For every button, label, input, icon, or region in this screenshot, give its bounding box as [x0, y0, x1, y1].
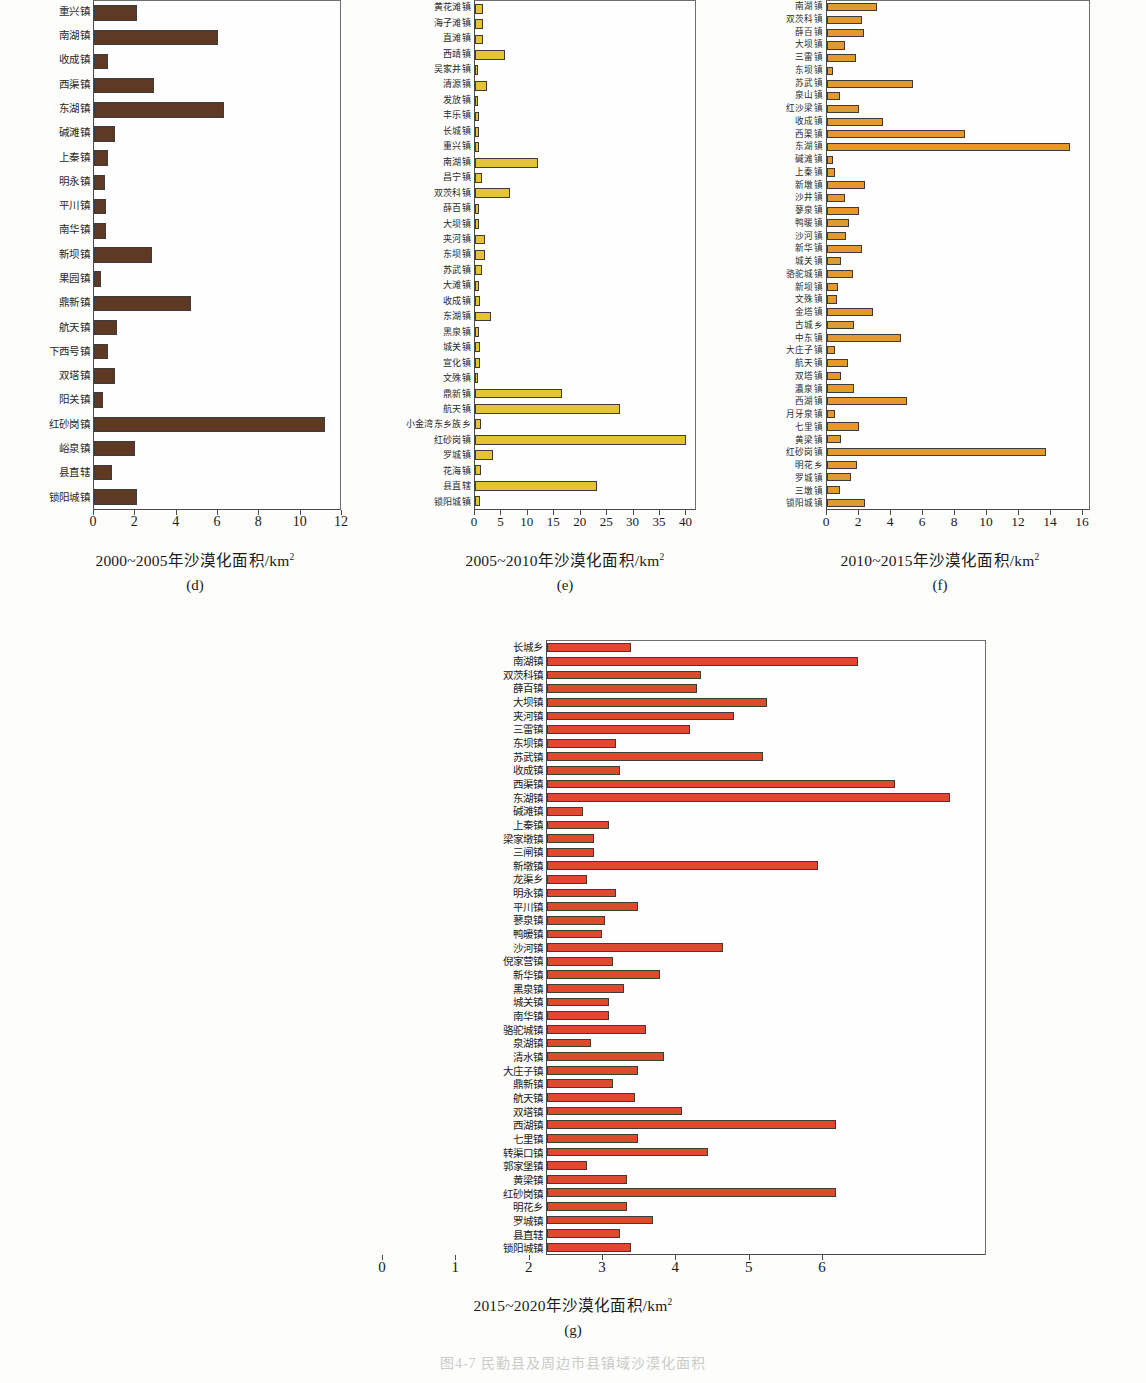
- bar-row: [547, 1200, 985, 1214]
- bar-row: [547, 1050, 985, 1064]
- category-label: 上秦镇: [8, 146, 90, 170]
- bar: [547, 1161, 587, 1170]
- category-label: 三雷镇: [451, 722, 543, 736]
- bar: [827, 359, 848, 367]
- category-label: 转渠口镇: [451, 1145, 543, 1159]
- bar: [547, 657, 859, 666]
- bar: [475, 50, 505, 60]
- bar: [475, 419, 481, 429]
- bar: [475, 96, 478, 106]
- bar-row: [827, 77, 1089, 90]
- category-label: 西渠镇: [8, 73, 90, 97]
- category-label: 上秦镇: [746, 166, 823, 179]
- bar: [827, 245, 862, 253]
- category-label: 新墩镇: [451, 859, 543, 873]
- category-label: 收成镇: [396, 294, 471, 309]
- bar: [827, 435, 841, 443]
- category-label: 县直辖: [8, 461, 90, 485]
- bar: [827, 448, 1046, 456]
- bar: [827, 384, 854, 392]
- bar: [475, 250, 485, 260]
- bar-row: [94, 243, 340, 267]
- bar-row: [547, 927, 985, 941]
- plot-area-g: [546, 640, 986, 1255]
- category-label: 黄梁镇: [451, 1173, 543, 1187]
- bar: [475, 112, 479, 122]
- bar: [547, 834, 595, 843]
- category-label: 郭家堡镇: [451, 1159, 543, 1173]
- bar: [827, 156, 833, 164]
- category-label: 重兴镇: [8, 0, 90, 24]
- x-axis-f: 0246810121416: [740, 510, 1110, 540]
- bar-row: [547, 941, 985, 955]
- bar: [475, 235, 485, 245]
- x-axis-title-sup-f: 2: [1035, 552, 1040, 562]
- bar-row: [475, 494, 695, 509]
- category-label: 罗城镇: [396, 448, 471, 463]
- category-label: 泉湖镇: [451, 1036, 543, 1050]
- bar: [94, 489, 137, 504]
- bar-row: [547, 1104, 985, 1118]
- bar-row: [547, 1159, 985, 1173]
- bar-row: [475, 370, 695, 385]
- category-label: 倪家营镇: [451, 954, 543, 968]
- category-label: 鸭暖镇: [451, 927, 543, 941]
- bar-row: [547, 668, 985, 682]
- category-label: 鼎新镇: [8, 291, 90, 315]
- bar: [475, 173, 482, 183]
- axis-tick-label: 10: [979, 514, 993, 530]
- category-label: 罗城镇: [451, 1214, 543, 1228]
- bar: [547, 1052, 664, 1061]
- x-axis-title-text-d: 2000~2005年沙漠化面积/km: [95, 552, 289, 569]
- bar-row: [827, 280, 1089, 293]
- bar: [547, 861, 818, 870]
- bar-row: [475, 186, 695, 201]
- bar-row: [547, 777, 985, 791]
- bar: [547, 970, 661, 979]
- bar: [547, 1148, 708, 1157]
- bar-row: [547, 859, 985, 873]
- x-axis-title-d: 2000~2005年沙漠化面积/km2: [0, 548, 390, 570]
- bar-row: [475, 1, 695, 16]
- category-label: 平川镇: [8, 194, 90, 218]
- bar: [94, 199, 106, 214]
- bar: [475, 265, 482, 275]
- bar-row: [547, 1023, 985, 1037]
- bar-row: [827, 420, 1089, 433]
- bar: [547, 1039, 591, 1048]
- bar-row: [475, 232, 695, 247]
- bar-row: [827, 179, 1089, 192]
- category-label: 重兴镇: [396, 139, 471, 154]
- bar-row: [475, 47, 695, 62]
- bar-row: [827, 369, 1089, 382]
- bar: [827, 168, 835, 176]
- bar-row: [94, 436, 340, 460]
- category-label: 清源镇: [396, 77, 471, 92]
- category-labels-e: 黄花滩镇海子滩镇直滩镇西靖镇吴家井镇清源镇发放镇丰乐镇长城镇重兴镇南湖镇昌宁镇双…: [396, 0, 474, 510]
- bar-row: [547, 1145, 985, 1159]
- bar: [547, 1216, 653, 1225]
- category-label: 东湖镇: [8, 97, 90, 121]
- bar: [94, 175, 105, 190]
- bar: [827, 232, 846, 240]
- axis-tick-label: 6: [214, 514, 221, 530]
- bar-row: [547, 818, 985, 832]
- bar: [547, 643, 631, 652]
- category-label: 双塔镇: [8, 364, 90, 388]
- category-label: 夹河镇: [451, 708, 543, 722]
- bar: [475, 496, 480, 506]
- chart-area-g: 长城乡南湖镇双茨科镇薛百镇大坝镇夹河镇三雷镇东坝镇苏武镇收成镇西渠镇东湖镇碱滩镇…: [0, 640, 1146, 1255]
- bar-row: [547, 995, 985, 1009]
- category-label: 古城乡: [746, 319, 823, 332]
- bar-row: [827, 408, 1089, 421]
- category-label: 宣化镇: [396, 355, 471, 370]
- category-label: 大坝镇: [746, 38, 823, 51]
- bar: [94, 102, 224, 117]
- category-label: 南湖镇: [396, 155, 471, 170]
- bar-row: [94, 461, 340, 485]
- bar: [475, 219, 479, 229]
- bar-row: [827, 446, 1089, 459]
- category-label: 黄梁镇: [746, 434, 823, 447]
- category-label: 苏武镇: [396, 263, 471, 278]
- axis-tick-label: 10: [520, 514, 533, 530]
